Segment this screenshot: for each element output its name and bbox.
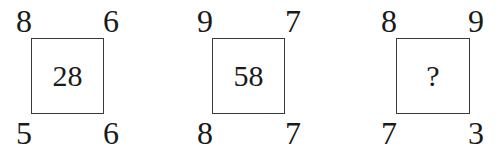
- top-right-number: 7: [283, 5, 303, 37]
- bottom-left-number: 5: [14, 117, 34, 149]
- bottom-right-number: 7: [283, 117, 303, 149]
- top-left-number: 8: [379, 5, 399, 37]
- top-left-number: 8: [14, 5, 34, 37]
- number-box: ?: [396, 38, 470, 114]
- bottom-right-number: 3: [466, 117, 486, 149]
- center-number: 58: [234, 61, 264, 91]
- bottom-left-number: 7: [379, 117, 399, 149]
- bottom-left-number: 8: [195, 117, 215, 149]
- top-left-number: 9: [195, 5, 215, 37]
- unknown-center-question-mark: ?: [426, 61, 439, 91]
- bottom-right-number: 6: [101, 117, 121, 149]
- top-right-number: 6: [101, 5, 121, 37]
- puzzle-panel-1: 8 6 28 5 6: [0, 0, 130, 151]
- puzzle-panel-2: 9 7 58 8 7: [180, 0, 310, 151]
- number-box: 58: [212, 38, 285, 114]
- puzzle-panel-3: 8 9 ? 7 3: [364, 0, 494, 151]
- center-number: 28: [53, 61, 83, 91]
- number-box: 28: [31, 38, 104, 114]
- top-right-number: 9: [466, 5, 486, 37]
